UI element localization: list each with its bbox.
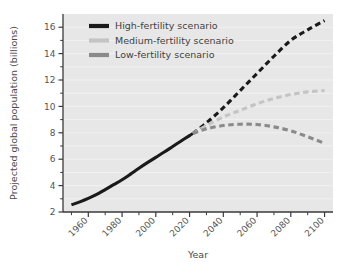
x-tick-label: 2020 [168,215,191,238]
legend-label: Medium-fertility scenario [115,35,234,46]
y-tick-label: 16 [44,22,56,32]
x-tick-label: 1960 [66,215,89,238]
x-axis-title: Year [187,249,208,260]
legend-swatch [89,24,109,28]
y-tick-label: 4 [50,181,56,191]
chart-canvas: 246810121416 196019802000202020402060208… [0,0,357,268]
y-tick-label: 10 [44,102,56,112]
y-tick-label: 6 [50,154,56,164]
x-axis-tick-labels: 19601980200020202040206020802100 [66,215,326,238]
x-tick-label: 2100 [303,215,326,238]
x-tick-label: 1980 [100,215,123,238]
legend-swatch [89,53,109,57]
y-axis-tick-labels: 246810121416 [44,22,56,217]
legend-label: High-fertility scenario [115,20,218,31]
x-axis-ticks [71,212,324,217]
legend-swatch [89,38,109,42]
y-tick-label: 8 [50,128,56,138]
y-axis-title: Projected global population (billions) [8,26,19,200]
x-tick-label: 2040 [201,215,224,238]
y-axis-ticks [59,27,64,212]
x-tick-label: 2080 [269,215,292,238]
x-tick-label: 2060 [235,215,258,238]
legend-label: Low-fertility scenario [115,49,215,60]
y-tick-label: 2 [50,207,56,217]
population-projection-chart: 246810121416 196019802000202020402060208… [0,0,357,268]
y-tick-label: 14 [44,49,56,59]
y-tick-label: 12 [44,75,55,85]
x-tick-label: 2000 [134,215,157,238]
